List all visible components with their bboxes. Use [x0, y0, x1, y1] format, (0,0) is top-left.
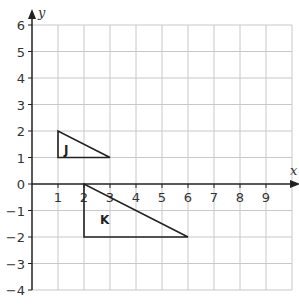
y-tick-label: −3 [6, 257, 25, 272]
y-tick-label: 5 [17, 45, 25, 60]
x-tick-label: 8 [236, 190, 244, 205]
y-tick-label: 4 [17, 71, 25, 86]
y-tick-label: 0 [17, 177, 25, 192]
x-axis-arrow-icon [290, 180, 299, 188]
shape-label: J [63, 143, 68, 157]
x-tick-label: 5 [158, 190, 166, 205]
y-tick-label: −1 [6, 204, 25, 219]
x-tick-label: 4 [132, 190, 140, 205]
y-tick-label: 1 [17, 151, 25, 166]
axes: 1234567896543210−1−2−3−4xy [6, 5, 299, 298]
y-tick-label: −4 [6, 283, 25, 298]
y-tick-label: 3 [17, 98, 25, 113]
y-axis-label: y [37, 5, 46, 20]
x-tick-label: 1 [54, 190, 62, 205]
x-axis-label: x [290, 163, 298, 178]
y-tick-label: 6 [17, 18, 25, 33]
y-tick-label: −2 [6, 230, 25, 245]
x-tick-label: 7 [210, 190, 218, 205]
y-tick-label: 2 [17, 124, 25, 139]
shape-label: K [100, 213, 110, 227]
coordinate-grid: 1234567896543210−1−2−3−4xyJK [0, 0, 299, 307]
y-axis-arrow-icon [28, 9, 36, 19]
x-tick-label: 9 [262, 190, 270, 205]
x-tick-label: 6 [184, 190, 192, 205]
